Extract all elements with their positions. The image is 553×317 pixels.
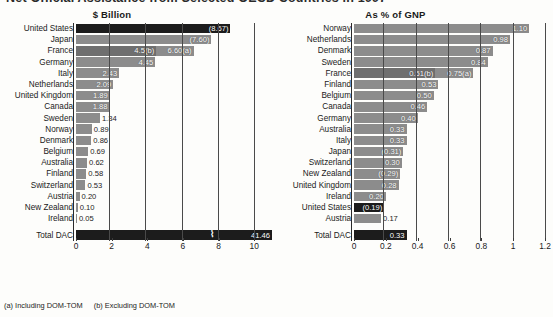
x-tick-label: 0.8: [476, 241, 488, 251]
bar-value-label: 0.53: [87, 180, 102, 191]
bar-track: (7.60): [76, 34, 272, 45]
bar: [76, 136, 91, 146]
bar-value-label: 0.98: [493, 34, 508, 45]
chart-row: United Kingdom1.89: [0, 90, 272, 101]
bar-value-label: 0.75(a): [447, 68, 471, 79]
chart-subtitle-dollars: $ Billion: [0, 9, 272, 20]
plot-area-dollars: United States(8.67)Japan(7.60)France4.5(…: [0, 23, 272, 255]
bar-value-label: 0.17: [383, 213, 398, 224]
bar-value-label: 0.33: [390, 135, 405, 146]
chart-row: Ireland0.05: [0, 213, 272, 224]
chart-row: Switzerland0.30: [272, 157, 553, 168]
bar-value-label: 0.33: [390, 124, 405, 135]
bar-value-label: 6.60(a): [168, 45, 192, 56]
category-label: New Zealand: [272, 168, 354, 179]
bar-track: 0.87: [354, 45, 553, 56]
bar: [76, 124, 92, 134]
x-tick-label: 1: [511, 241, 516, 251]
chart-row: United States(8.67): [0, 23, 272, 34]
category-label: Japan: [272, 146, 354, 157]
category-label: Denmark: [272, 45, 354, 56]
chart-row: Norway1.10: [272, 23, 553, 34]
chart-row: Italy0.33: [272, 135, 553, 146]
bar-value-label: 0.20: [82, 191, 97, 202]
plot-area-gnp: Norway1.10Netherlands0.98Denmark0.87Swed…: [272, 23, 553, 255]
category-label: Denmark: [0, 135, 76, 146]
bar: [76, 169, 86, 179]
chart-row: Denmark0.87: [272, 45, 553, 56]
bar-track: 2.09: [76, 79, 272, 90]
bar-track: 0.33: [354, 135, 553, 146]
x-tick-label: 4: [145, 241, 150, 251]
bar-track: 0.69: [76, 146, 272, 157]
category-label: Total DAC: [272, 230, 354, 241]
bar-track: 1.88: [76, 101, 272, 112]
bar-track: (0.19): [354, 202, 553, 213]
category-label: France: [272, 68, 354, 79]
chart-panel-gnp: As % of GNP Norway1.10Netherlands0.98Den…: [272, 7, 553, 299]
bar-value-label: 4.45: [139, 57, 154, 68]
chart-row: Australia0.62: [0, 157, 272, 168]
bar-value-label: 1.89: [93, 90, 108, 101]
chart-row: Sweden0.84: [272, 57, 553, 68]
category-label: Australia: [272, 124, 354, 135]
category-label: Germany: [272, 113, 354, 124]
category-label: Germany: [0, 57, 76, 68]
chart-row: Germany0.40: [272, 113, 553, 124]
bar: [76, 147, 88, 157]
bar-track: 2.43: [76, 68, 272, 79]
axis-break-icon: ⌇: [208, 230, 215, 240]
category-label: United Kingdom: [0, 90, 76, 101]
chart-row: Australia0.33: [272, 124, 553, 135]
category-label: Finland: [272, 79, 354, 90]
x-tick-label: 0: [74, 241, 79, 251]
bar-value-label: 0.89: [94, 124, 109, 135]
x-tick-label: 0.2: [380, 241, 392, 251]
chart-row: Norway0.89: [0, 124, 272, 135]
bar-value-label: 1.10: [512, 23, 527, 34]
category-label: France: [0, 45, 76, 56]
bar: [76, 158, 87, 168]
category-label: Italy: [0, 68, 76, 79]
bar-value-label: 0.28: [382, 180, 397, 191]
bar-track: 0.20: [354, 191, 553, 202]
bar-track: ⌇41.46: [76, 230, 272, 241]
bar-track: 0.10: [76, 202, 272, 213]
chart-row: Austria0.17: [272, 213, 553, 224]
chart-row: Netherlands0.98: [272, 34, 553, 45]
footnote-b: (b) Excluding DOM-TOM: [94, 301, 175, 310]
chart-row: Switzerland0.53: [0, 180, 272, 191]
chart-row: Canada0.46: [272, 101, 553, 112]
bar-track: 0.05: [76, 213, 272, 224]
bar-value-label: 0.87: [476, 45, 491, 56]
bar-track: 0.50: [354, 90, 553, 101]
category-label: Austria: [272, 213, 354, 224]
bar-track: 0.89: [76, 124, 272, 135]
chart-row: France4.5(b)6.60(a): [0, 45, 272, 56]
x-tick-label: 1.2: [539, 241, 551, 251]
chart-row: Canada1.88: [0, 101, 272, 112]
category-label: United States: [0, 23, 76, 34]
chart-title-strip: Net Official Assistance from Selected OE…: [0, 0, 553, 7]
bar: [76, 214, 77, 224]
chart-row: United States(0.19): [272, 202, 553, 213]
bar-track: 0.53: [76, 180, 272, 191]
bar-value-label: (0.29): [378, 168, 398, 179]
bar: [76, 24, 230, 34]
category-label: Finland: [0, 168, 76, 179]
bar-value-label: 0.20: [369, 191, 384, 202]
chart-row: New Zealand(0.29): [272, 168, 553, 179]
bar-value-label: 0.46: [410, 101, 425, 112]
bar-value-label-secondary: 4.5(b): [134, 45, 154, 56]
chart-subtitle-gnp: As % of GNP: [272, 9, 553, 20]
bar-track: 0.33: [354, 230, 553, 241]
chart-row: Finland0.53: [272, 79, 553, 90]
chart-row: New Zealand0.10: [0, 202, 272, 213]
category-label: Sweden: [0, 113, 76, 124]
category-label: Switzerland: [272, 157, 354, 168]
chart-row: Japan(0.31): [272, 146, 553, 157]
chart-row: Total DAC0.33: [272, 230, 553, 241]
bar-value-label: 1.88: [93, 101, 108, 112]
bar-track: 0.28: [354, 180, 553, 191]
category-label: Canada: [272, 101, 354, 112]
